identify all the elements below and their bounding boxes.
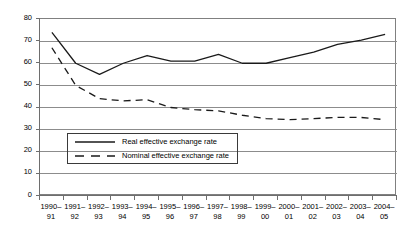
x-tick-label-bottom: 05 — [367, 212, 401, 222]
x-tick-mark — [182, 195, 183, 200]
chart-legend: Real effective exchange rate Nominal eff… — [67, 133, 238, 164]
x-tick-mark — [110, 195, 111, 200]
series-line-real — [52, 32, 385, 74]
x-tick-label-top: 2004– — [367, 202, 401, 212]
y-tick-label: 80 — [8, 14, 32, 22]
series-line-nominal — [52, 48, 385, 120]
y-tick-label: 70 — [8, 36, 32, 44]
y-tick-label: 60 — [8, 58, 32, 66]
x-tick-mark — [63, 195, 64, 200]
x-tick-mark — [396, 195, 397, 200]
line-chart: 80706050403020100 1990–911991–921992–931… — [0, 0, 404, 238]
legend-item-real: Real effective exchange rate — [68, 135, 239, 149]
gridlines — [40, 19, 397, 196]
legend-item-nominal: Nominal effective exchange rate — [68, 149, 239, 163]
x-axis-labels: 1990–911991–921992–931993–941994–951995–… — [0, 202, 404, 226]
legend-swatch-solid-icon — [75, 141, 115, 143]
x-tick-mark — [158, 195, 159, 200]
x-tick-mark — [39, 195, 40, 200]
y-tick-label: 10 — [8, 168, 32, 176]
x-tick-mark — [206, 195, 207, 200]
x-tick-mark — [229, 195, 230, 200]
y-tick-label: 20 — [8, 146, 32, 154]
legend-label-nominal: Nominal effective exchange rate — [122, 150, 229, 162]
x-tick-mark — [301, 195, 302, 200]
x-axis-ticks — [0, 195, 404, 201]
legend-label-real: Real effective exchange rate — [122, 136, 217, 148]
legend-swatch-dashed-icon — [75, 155, 115, 157]
plot-area — [39, 18, 396, 195]
y-tick-label: 50 — [8, 80, 32, 88]
x-tick-mark — [348, 195, 349, 200]
series-layer — [52, 32, 385, 119]
x-tick-mark — [277, 195, 278, 200]
x-tick-mark — [253, 195, 254, 200]
x-tick-mark — [325, 195, 326, 200]
y-axis-line — [39, 18, 40, 196]
plot-svg — [40, 19, 397, 196]
x-tick-mark — [87, 195, 88, 200]
x-tick-mark — [134, 195, 135, 200]
x-tick-mark — [372, 195, 373, 200]
y-tick-label: 40 — [8, 102, 32, 110]
x-tick-label: 2004–05 — [367, 202, 401, 222]
y-tick-label: 30 — [8, 124, 32, 132]
